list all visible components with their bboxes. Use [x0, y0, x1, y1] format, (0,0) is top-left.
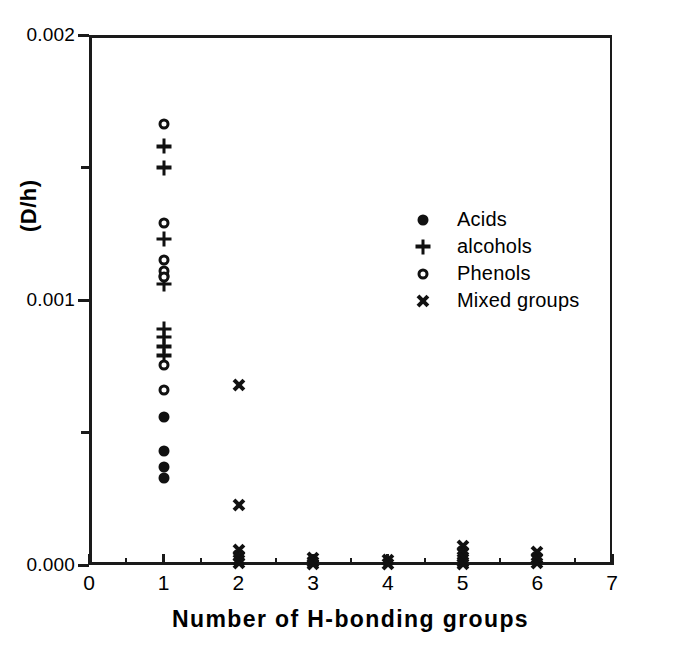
x-tick-major: [88, 554, 91, 565]
x-tick-label: 7: [606, 571, 618, 595]
y-tick-minor: [81, 166, 89, 169]
y-axis-title: (D/h): [16, 179, 42, 232]
x-tick-minor: [424, 558, 426, 565]
cross-marker: [231, 556, 245, 570]
scatter-plot-figure: 0.0000.0010.002 01234567 (D/h) Number of…: [0, 0, 685, 661]
open-circle-marker: [158, 272, 169, 283]
cross-marker: [530, 556, 544, 570]
open-circle-marker: [158, 385, 169, 396]
y-tick-label: 0.002: [26, 24, 75, 46]
x-tick-minor: [200, 558, 202, 565]
cross-marker: [231, 378, 245, 392]
cross-marker: [456, 557, 470, 571]
filled-circle-marker: [418, 214, 429, 225]
legend-swatch: [412, 209, 434, 231]
legend-label: Acids: [457, 208, 507, 231]
open-circle-marker: [418, 268, 429, 279]
legend-label: Phenols: [457, 262, 531, 285]
legend: AcidsalcoholsPhenolsMixed groups: [412, 206, 579, 314]
legend-item-mixed-groups: Mixed groups: [412, 287, 579, 314]
cross-marker: [416, 294, 430, 308]
filled-circle-marker: [158, 472, 169, 483]
x-tick-label: 0: [83, 571, 95, 595]
y-tick-label: 0.000: [26, 554, 75, 576]
x-tick-minor: [499, 558, 501, 565]
plus-marker: [156, 139, 171, 154]
open-circle-marker: [158, 218, 169, 229]
x-tick-minor: [275, 558, 277, 565]
legend-label: Mixed groups: [457, 289, 579, 312]
x-tick-minor: [574, 558, 576, 565]
filled-circle-marker: [158, 446, 169, 457]
x-tick-minor: [125, 558, 127, 565]
cross-marker: [306, 557, 320, 571]
filled-circle-marker: [158, 411, 169, 422]
legend-swatch: [412, 263, 434, 285]
legend-swatch: [412, 290, 434, 312]
open-circle-marker: [158, 118, 169, 129]
x-tick-label: 6: [531, 571, 543, 595]
x-tick-label: 5: [457, 571, 469, 595]
legend-item-phenols: Phenols: [412, 260, 579, 287]
x-tick-label: 1: [158, 571, 170, 595]
open-circle-marker: [158, 359, 169, 370]
y-tick-minor: [81, 431, 89, 434]
plus-marker: [156, 232, 171, 247]
x-axis-title: Number of H-bonding groups: [89, 606, 612, 633]
plus-marker: [416, 239, 431, 254]
cross-marker: [231, 498, 245, 512]
x-tick-major: [162, 554, 165, 565]
y-tick-major: [78, 34, 89, 37]
y-tick-label: 0.001: [26, 289, 75, 311]
filled-circle-marker: [158, 461, 169, 472]
legend-item-acids: Acids: [412, 206, 579, 233]
y-tick-major: [78, 299, 89, 302]
x-tick-major: [611, 554, 614, 565]
legend-swatch: [412, 236, 434, 258]
cross-marker: [381, 557, 395, 571]
x-tick-minor: [350, 558, 352, 565]
open-circle-marker: [158, 255, 169, 266]
legend-label: alcohols: [457, 235, 532, 258]
x-tick-label: 2: [233, 571, 245, 595]
x-tick-label: 4: [382, 571, 394, 595]
plus-marker: [156, 160, 171, 175]
x-tick-label: 3: [307, 571, 319, 595]
legend-item-alcohols: alcohols: [412, 233, 579, 260]
